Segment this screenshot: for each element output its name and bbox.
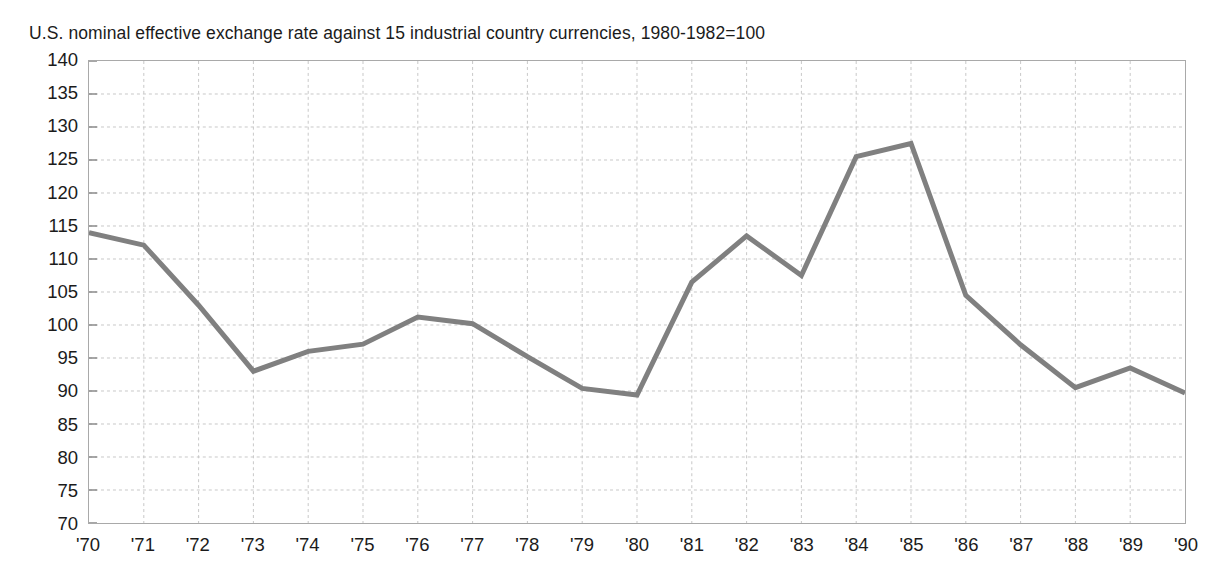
- y-axis-tick-label: 100: [8, 316, 78, 335]
- plot-area: [88, 60, 1186, 524]
- y-axis-tick-label: 125: [8, 150, 78, 169]
- x-axis-tick-labels: '70'71'72'73'74'75'76'77'78'79'80'81'82'…: [88, 536, 1186, 562]
- x-axis-tick-label: '72: [168, 536, 228, 555]
- x-axis-tick-label: '77: [442, 536, 502, 555]
- x-axis-tick-label: '78: [497, 536, 557, 555]
- x-axis-tick-label: '74: [278, 536, 338, 555]
- x-axis-tick-label: '85: [882, 536, 942, 555]
- x-axis-tick-label: '82: [717, 536, 777, 555]
- line-chart-svg: [89, 61, 1185, 523]
- y-axis-tick-label: 70: [8, 515, 78, 534]
- y-axis-ticks: [89, 61, 97, 523]
- y-axis-tick-label: 80: [8, 449, 78, 468]
- x-axis-tick-label: '73: [223, 536, 283, 555]
- y-axis-tick-label: 90: [8, 382, 78, 401]
- x-axis-tick-label: '70: [58, 536, 118, 555]
- y-axis-tick-label: 110: [8, 250, 78, 269]
- y-axis-tick-label: 115: [8, 217, 78, 236]
- plot-wrapper: [88, 60, 1186, 524]
- x-axis-tick-label: '87: [991, 536, 1051, 555]
- chart-figure: U.S. nominal effective exchange rate aga…: [0, 0, 1208, 567]
- x-axis-tick-label: '80: [607, 536, 667, 555]
- x-axis-tick-label: '88: [1046, 536, 1106, 555]
- x-axis-tick-label: '79: [552, 536, 612, 555]
- x-axis-tick-label: '89: [1101, 536, 1161, 555]
- y-axis-tick-label: 105: [8, 283, 78, 302]
- x-axis-tick-label: '86: [936, 536, 996, 555]
- x-axis-tick-label: '71: [113, 536, 173, 555]
- x-axis-tick-label: '84: [827, 536, 887, 555]
- y-axis-tick-label: 135: [8, 84, 78, 103]
- x-axis-tick-label: '81: [662, 536, 722, 555]
- x-axis-tick-label: '76: [387, 536, 447, 555]
- y-axis-tick-label: 120: [8, 184, 78, 203]
- x-axis-tick-label: '75: [333, 536, 393, 555]
- chart-title: U.S. nominal effective exchange rate aga…: [29, 23, 765, 43]
- y-axis-tick-labels: 140135130125120115110105100959085807570: [0, 60, 78, 524]
- y-axis-tick-label: 75: [8, 482, 78, 501]
- y-axis-tick-label: 140: [8, 51, 78, 70]
- x-axis-tick-label: '83: [772, 536, 832, 555]
- y-axis-tick-label: 95: [8, 349, 78, 368]
- y-axis-tick-label: 85: [8, 416, 78, 435]
- y-axis-tick-label: 130: [8, 117, 78, 136]
- x-axis-tick-label: '90: [1156, 536, 1208, 555]
